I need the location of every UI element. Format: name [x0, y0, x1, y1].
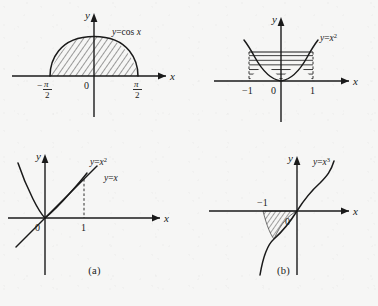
panel-c-lens-region: y x 0 1 y=x2 y=x (c): [0, 153, 189, 306]
panel-d-cubic: y x −1 0 y=x3 (d): [189, 153, 378, 306]
x-axis-arrow: [341, 78, 349, 85]
x-axis-label: x: [169, 70, 175, 82]
svg-text:π: π: [134, 79, 139, 89]
y-axis-arrow: [294, 156, 301, 165]
curve-label-y-equals-x: y=x: [103, 173, 119, 183]
y-axis-label: y: [84, 9, 90, 21]
y-axis-label: y: [35, 153, 41, 162]
x-axis-label: x: [163, 212, 169, 224]
panel-a-cosine: y x 0 − π 2 π 2 y=cos x (a): [0, 0, 189, 153]
tick-label-neg-one: −1: [242, 85, 253, 96]
origin-label: 0: [35, 222, 40, 233]
x-axis-arrow: [158, 73, 166, 80]
curve-label-x-squared: y=x2: [319, 32, 337, 44]
origin-label: 0: [271, 85, 276, 96]
origin-label: 0: [285, 216, 290, 227]
y-axis-arrow: [42, 154, 49, 163]
y-axis-label: y: [287, 153, 293, 164]
panel-b-parabola-band: y x 0 −1 1 y=x2 (b): [189, 0, 378, 153]
x-axis-label: x: [352, 75, 358, 87]
tick-label-neg-one: −1: [257, 197, 268, 208]
tick-label-one: 1: [81, 222, 86, 233]
tick-label-one: 1: [310, 85, 315, 96]
svg-text:2: 2: [45, 90, 50, 100]
svg-text:π: π: [44, 79, 49, 89]
y-axis-arrow: [278, 17, 285, 26]
x-axis-label: x: [352, 205, 358, 217]
shaded-region-cos: [48, 32, 142, 78]
figure-root: y x 0 − π 2 π 2 y=cos x (a): [0, 0, 378, 306]
curve-label-x-squared: y=x2: [89, 156, 107, 168]
x-axis-arrow: [152, 215, 160, 222]
curve-label-x-cubed: y=x3: [312, 156, 330, 168]
origin-label: 0: [84, 80, 89, 91]
x-axis-arrow: [341, 208, 349, 215]
tick-label-neg-half-pi: − π 2: [37, 79, 52, 100]
tick-label-half-pi: π 2: [133, 79, 142, 100]
curve-y-equals-x: [16, 166, 97, 247]
curve-label-cos: y=cos x: [111, 27, 142, 37]
y-axis-label: y: [271, 13, 277, 25]
svg-text:−: −: [37, 81, 42, 91]
svg-text:2: 2: [135, 90, 140, 100]
y-axis-arrow: [91, 13, 98, 22]
